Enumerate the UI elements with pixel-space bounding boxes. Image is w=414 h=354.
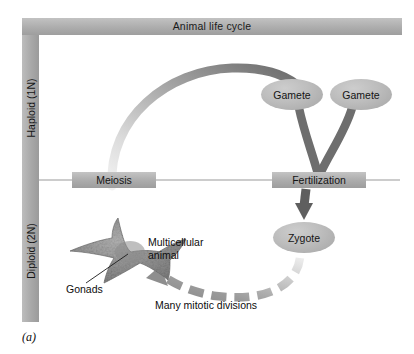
axis-diploid-label: Diploid (2N) [25,223,37,278]
process-box-meiosis: Meiosis [72,172,156,188]
animal-life-cycle-header-bar: Animal life cycle [22,18,402,35]
header-title: Animal life cycle [22,18,402,35]
figure-caption: (a) [22,330,36,345]
cell-gamete-right: Gamete [330,79,392,110]
fertilization-to-zygote-arrowhead [295,203,313,220]
label-gonads: Gonads [66,283,103,296]
gamete-left-stem [299,108,318,174]
axis-haploid-bar: Haploid (1N) [22,35,39,180]
axis-haploid-label: Haploid (1N) [25,78,37,137]
animal-life-cycle-figure: Animal life cycle Haploid (1N) Diploid (… [0,0,414,354]
axis-diploid-bar: Diploid (2N) [22,180,39,322]
gamete-right-stem [320,108,352,174]
mitotic-divisions-arc [166,258,300,297]
label-many-mitotic-divisions: Many mitotic divisions [155,299,257,312]
label-multicellular-animal: Multicellular animal [148,236,203,261]
cell-gamete-left: Gamete [261,79,323,110]
process-box-fertilization: Fertilization [272,172,366,188]
cell-zygote: Zygote [273,222,335,253]
